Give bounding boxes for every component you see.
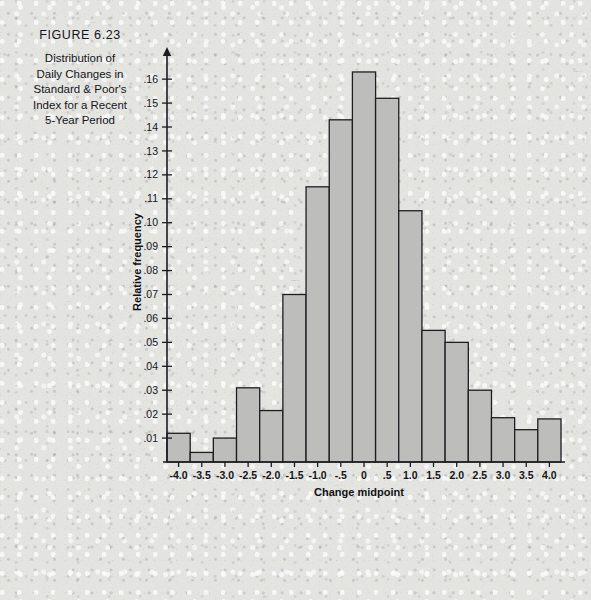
x-axis-ticks: -4.0-3.5-3.0-2.5-2.0-1.5-1.0-.50.51.01.5… (170, 462, 557, 481)
y-axis-tick-label: .05 (143, 336, 158, 348)
histogram-bar (376, 98, 399, 462)
x-axis-tick-label: 3.0 (496, 469, 511, 481)
x-axis-tick-label: -3.0 (216, 469, 234, 481)
y-axis-tick-label: .12 (143, 168, 158, 180)
x-axis-tick-label: 1.0 (403, 469, 418, 481)
x-axis-tick-label: -2.5 (239, 469, 257, 481)
figure-title: Distribution of Daily Changes in Standar… (10, 51, 150, 129)
histogram-bar (352, 72, 375, 462)
x-axis-tick-label: 0 (361, 469, 367, 481)
x-axis-tick-label: 3.5 (519, 469, 534, 481)
y-axis-tick-label: .03 (143, 384, 158, 396)
histogram-bar (468, 390, 491, 462)
histogram-bar (491, 418, 514, 462)
x-axis-tick-label: 1.5 (426, 469, 441, 481)
histogram-bar (260, 411, 283, 462)
histogram-bar (190, 452, 213, 462)
y-axis-tick-label: .06 (143, 312, 158, 324)
figure-number: FIGURE 6.23 (10, 28, 150, 42)
x-axis-tick-label: -1.0 (309, 469, 327, 481)
y-axis-tick-label: .10 (143, 216, 158, 228)
y-axis-tick-label: .07 (143, 288, 158, 300)
histogram-bar (445, 342, 468, 462)
y-axis-tick-label: .08 (143, 264, 158, 276)
histogram-bar (515, 430, 538, 462)
y-axis-title: Relative frequency (131, 212, 143, 311)
figure-title-line: Daily Changes in (10, 67, 150, 83)
histogram-bar (329, 120, 352, 462)
figure-caption: FIGURE 6.23 Distribution of Daily Change… (10, 28, 150, 129)
x-axis-tick-label: -3.5 (193, 469, 211, 481)
x-axis-tick-label: -2.0 (262, 469, 280, 481)
histogram-bar (538, 419, 561, 462)
x-axis-tick-label: -4.0 (170, 469, 188, 481)
y-axis-tick-label: .11 (144, 192, 158, 204)
histogram-bar (237, 388, 260, 462)
x-axis-tick-label: 2.5 (473, 469, 488, 481)
y-axis-arrow-icon (163, 47, 171, 56)
x-axis-tick-label: 2.0 (449, 469, 464, 481)
figure-title-line: Distribution of (10, 51, 150, 67)
x-axis-tick-label: .5 (383, 469, 392, 481)
histogram-bar (306, 187, 329, 462)
histogram-bar (399, 211, 422, 462)
bars-layer (167, 72, 561, 462)
y-axis-tick-label: .01 (143, 432, 158, 444)
x-axis-title: Change midpoint (314, 486, 404, 498)
y-axis-tick-label: .13 (143, 145, 158, 157)
y-axis-tick-label: .04 (143, 360, 158, 372)
histogram-bar (283, 295, 306, 463)
x-axis-tick-label: 4.0 (542, 469, 557, 481)
figure-title-line: Index for a Recent (10, 98, 150, 114)
histogram-bar (422, 330, 445, 462)
x-axis-tick-label: -1.5 (285, 469, 303, 481)
y-axis-tick-label: .02 (143, 408, 158, 420)
figure-title-line: Standard & Poor's (10, 82, 150, 98)
histogram-bar (213, 438, 236, 462)
figure-title-line: 5-Year Period (10, 113, 150, 129)
y-axis-tick-label: .09 (143, 240, 158, 252)
x-axis-tick-label: -.5 (335, 469, 347, 481)
